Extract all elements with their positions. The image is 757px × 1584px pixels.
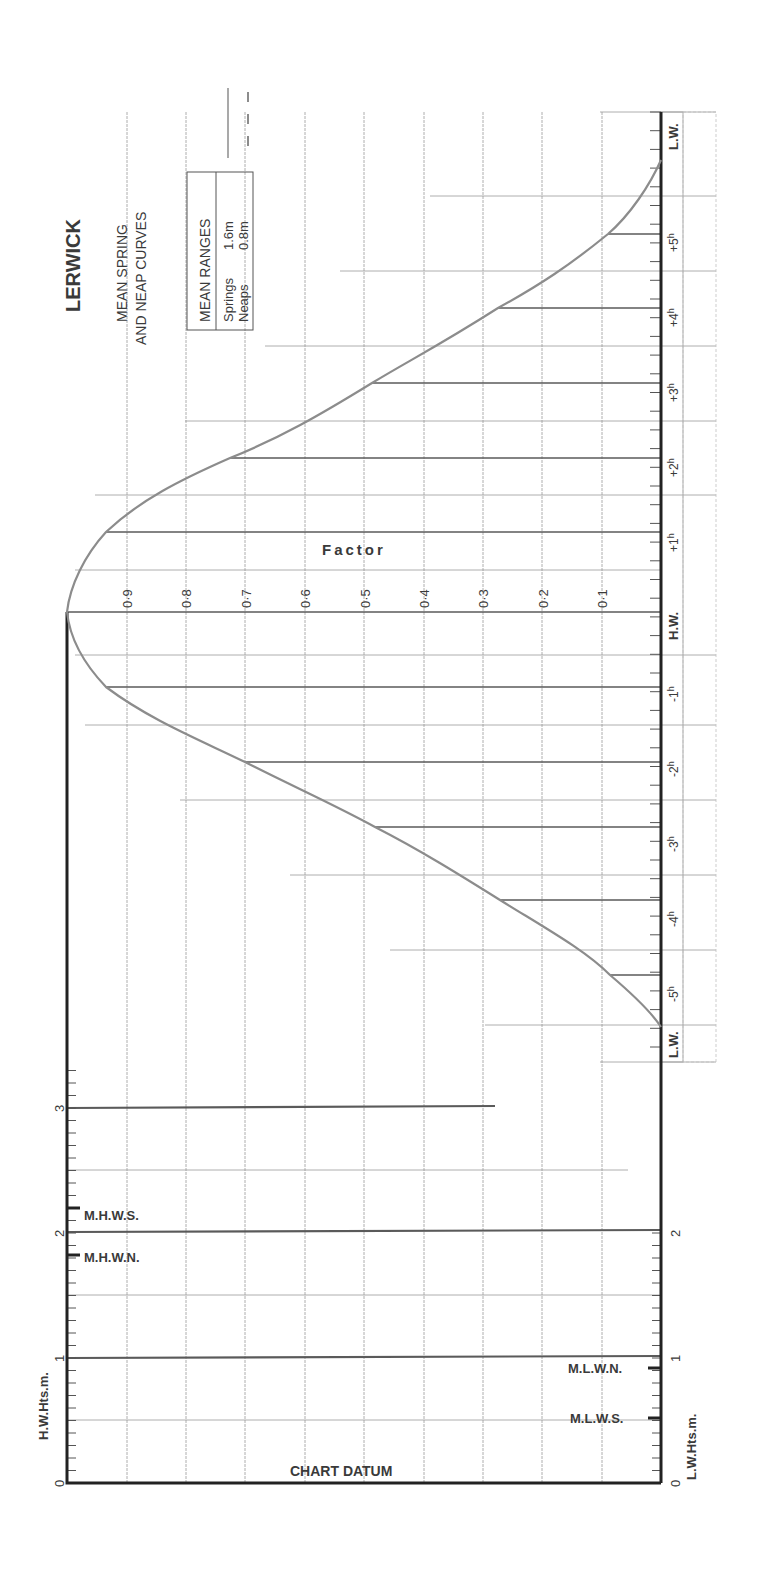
hour-label: -4h <box>666 911 681 927</box>
subtitle-line1: MEAN SPRING <box>114 224 130 322</box>
left-height-tick-label: 2 <box>52 1230 67 1237</box>
factor-tick-label: 0·6 <box>298 589 313 608</box>
hour-label: +3h <box>666 383 681 402</box>
hour-label: +5h <box>666 233 681 252</box>
mhwn-label: M.H.W.N. <box>84 1250 140 1265</box>
left-height-tick-label: 0 <box>52 1480 67 1487</box>
mlwn-label: M.L.W.N. <box>568 1361 622 1376</box>
legend-springs-value: 1.6m <box>221 221 236 250</box>
right-height-tick-label: 2 <box>668 1230 683 1237</box>
hour-label: +1h <box>666 533 681 552</box>
half-hour-grid <box>75 112 716 1062</box>
right-height-tick-label: 1 <box>668 1355 683 1362</box>
legend-springs-label: Springs <box>221 277 236 322</box>
factor-tick-label: 0·7 <box>239 589 254 608</box>
lw-start-label: L.W. <box>666 1031 681 1058</box>
time-ticks <box>650 112 661 1047</box>
factor-tick-label: 0·3 <box>476 589 491 608</box>
hour-label: -5h <box>666 986 681 1002</box>
legend-neaps-value: 0.8m <box>236 221 251 250</box>
right-height-tick-label: 0 <box>668 1480 683 1487</box>
factor-tick-label: 0·4 <box>417 589 432 608</box>
left-height-tick-label: 1 <box>52 1355 67 1362</box>
chart-title: LERWICK <box>62 218 84 312</box>
factor-tick-label: 0·1 <box>595 589 610 608</box>
hw-label: H.W. <box>666 612 681 640</box>
hour-label: +4h <box>666 308 681 327</box>
left-axis-label: H.W.Hts.m. <box>36 1372 51 1440</box>
lw-end-label: L.W. <box>666 123 681 150</box>
hour-label: -2h <box>666 761 681 777</box>
legend-neaps-label: Neaps <box>236 284 251 322</box>
factor-tick-label: 0·2 <box>536 589 551 608</box>
tidal-curve-chart: LERWICK MEAN SPRING AND NEAP CURVES MEAN… <box>0 0 757 1584</box>
chart-datum-label: CHART DATUM <box>290 1463 392 1479</box>
left-height-tick-label: 3 <box>52 1105 67 1112</box>
factor-tick-label: 0·9 <box>120 589 135 608</box>
hour-label: +2h <box>666 458 681 477</box>
factor-tick-label: 0·8 <box>179 589 194 608</box>
hour-label: -1h <box>666 686 681 702</box>
factor-label: Factor <box>322 541 386 558</box>
legend-header: MEAN RANGES <box>197 219 213 322</box>
right-axis-label: L.W.Hts.m. <box>684 1414 699 1480</box>
subtitle-line2: AND NEAP CURVES <box>133 212 149 345</box>
mhws-label: M.H.W.S. <box>84 1208 139 1223</box>
factor-tick-label: 0·5 <box>358 589 373 608</box>
hour-label: -3h <box>666 836 681 852</box>
mlws-label: M.L.W.S. <box>570 1411 623 1426</box>
